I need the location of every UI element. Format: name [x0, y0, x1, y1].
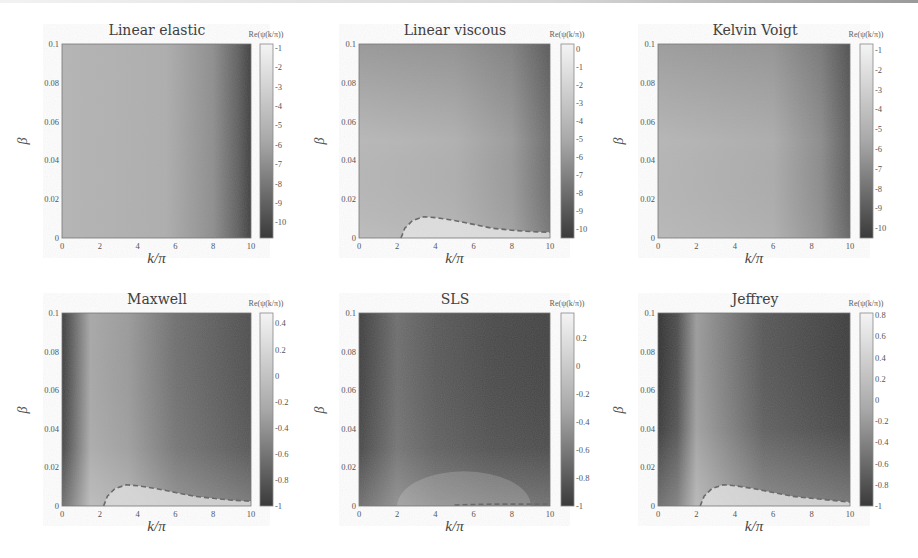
colorbar-label: Re(ψ(k/π)) [550, 299, 585, 308]
colorbar-tick: -4 [875, 104, 882, 114]
heatmap-linear-viscous [359, 44, 550, 238]
colorbar-tick: -3 [275, 82, 282, 92]
y-tick: 0.06 [341, 385, 356, 395]
y-tick: 0.08 [341, 347, 356, 357]
y-tick: 0.02 [44, 462, 59, 472]
x-tick: 4 [733, 509, 737, 519]
colorbar-tick: 0.8 [875, 310, 886, 320]
colorbar-tick: -2 [275, 62, 282, 72]
heatmap-maxwell [62, 313, 251, 506]
y-tick: 0.02 [341, 462, 356, 472]
y-tick: 0.02 [640, 194, 655, 204]
panel-title: Jeffrey [732, 291, 779, 307]
colorbar-tick: 0.2 [875, 374, 886, 384]
colorbar-tick: 0 [576, 361, 580, 371]
x-tick: 0 [357, 509, 361, 519]
y-tick: 0.02 [640, 462, 655, 472]
x-tick: 0 [656, 241, 660, 251]
colorbar-tick: -10 [875, 223, 886, 233]
x-tick: 6 [471, 241, 475, 251]
colorbar-tick: 0.2 [275, 345, 286, 355]
colorbar [260, 313, 273, 506]
x-tick: 10 [247, 509, 256, 519]
panel-title: Maxwell [127, 291, 187, 307]
x-tick: 4 [135, 241, 139, 251]
y-tick: 0.04 [44, 155, 59, 165]
y-tick: 0.1 [48, 39, 59, 49]
y-tick: 0.08 [44, 78, 59, 88]
colorbar-label: Re(ψ(k/π)) [849, 299, 884, 308]
y-tick: 0.04 [640, 155, 655, 165]
x-tick: 0 [60, 241, 64, 251]
colorbar-tick: -0.2 [275, 397, 288, 407]
y-tick: 0.08 [640, 78, 655, 88]
colorbar-tick: -6 [875, 144, 882, 154]
colorbar-tick: -3 [875, 85, 882, 95]
y-axis-label: β [312, 406, 328, 413]
colorbar-tick: -8 [275, 179, 282, 189]
y-tick: 0.04 [341, 155, 356, 165]
x-tick: 6 [173, 509, 177, 519]
colorbar-tick: -0.4 [275, 423, 288, 433]
y-tick: 0.1 [644, 39, 655, 49]
y-axis-label: β [611, 138, 627, 145]
y-tick: 0 [352, 233, 356, 243]
colorbar [860, 313, 873, 506]
y-tick: 0.08 [341, 78, 356, 88]
colorbar-tick: -7 [875, 164, 882, 174]
y-tick: 0.1 [644, 308, 655, 318]
colorbar-tick: -8 [576, 188, 583, 198]
colorbar-tick: 0 [576, 44, 580, 54]
colorbar-tick: -0.4 [875, 437, 888, 447]
top-border [0, 0, 918, 3]
heatmap-linear-elastic [62, 44, 251, 238]
y-axis-label: β [15, 138, 31, 145]
colorbar-label: Re(ψ(k/π)) [849, 30, 884, 39]
x-tick: 8 [211, 509, 215, 519]
y-tick: 0.06 [640, 117, 655, 127]
x-tick: 6 [173, 241, 177, 251]
colorbar [260, 44, 273, 238]
colorbar [561, 44, 574, 238]
colorbar-tick: -9 [576, 206, 583, 216]
y-tick: 0.1 [48, 308, 59, 318]
colorbar-tick: -5 [275, 120, 282, 130]
colorbar-tick: 0 [875, 395, 879, 405]
colorbar-tick: 0.2 [576, 333, 587, 343]
colorbar-label: Re(ψ(k/π)) [249, 299, 284, 308]
y-tick: 0.04 [44, 424, 59, 434]
heatmap-kelvin-voigt [658, 44, 850, 238]
x-axis-label: k/π [445, 250, 463, 267]
x-tick: 2 [694, 509, 698, 519]
x-tick: 4 [135, 509, 139, 519]
x-axis-label: k/π [745, 518, 763, 535]
y-tick: 0.1 [345, 308, 356, 318]
x-tick: 8 [809, 509, 813, 519]
colorbar-tick: 0.4 [875, 353, 886, 363]
colorbar-tick: 0 [275, 371, 279, 381]
colorbar-tick: -0.2 [576, 389, 589, 399]
colorbar-tick: -4 [275, 101, 282, 111]
x-axis-label: k/π [745, 250, 763, 267]
colorbar-tick: -0.2 [875, 416, 888, 426]
x-tick: 4 [433, 241, 437, 251]
colorbar-tick: -4 [576, 116, 583, 126]
panel-title: Kelvin Voigt [712, 22, 797, 38]
colorbar-tick: -1 [875, 45, 882, 55]
colorbar-tick: -0.8 [576, 473, 589, 483]
y-tick: 0.04 [640, 424, 655, 434]
y-axis-label: β [15, 406, 31, 413]
y-tick: 0.06 [44, 385, 59, 395]
colorbar-tick: -6 [275, 140, 282, 150]
x-tick: 10 [546, 509, 555, 519]
colorbar-tick: -10 [576, 224, 587, 234]
x-tick: 10 [546, 241, 555, 251]
x-tick: 4 [733, 241, 737, 251]
colorbar-tick: -0.6 [875, 459, 888, 469]
x-tick: 2 [395, 241, 399, 251]
y-axis-label: β [312, 138, 328, 145]
colorbar-tick: -0.8 [875, 480, 888, 490]
colorbar-tick: -5 [875, 124, 882, 134]
x-tick: 0 [60, 509, 64, 519]
x-tick: 8 [510, 509, 514, 519]
